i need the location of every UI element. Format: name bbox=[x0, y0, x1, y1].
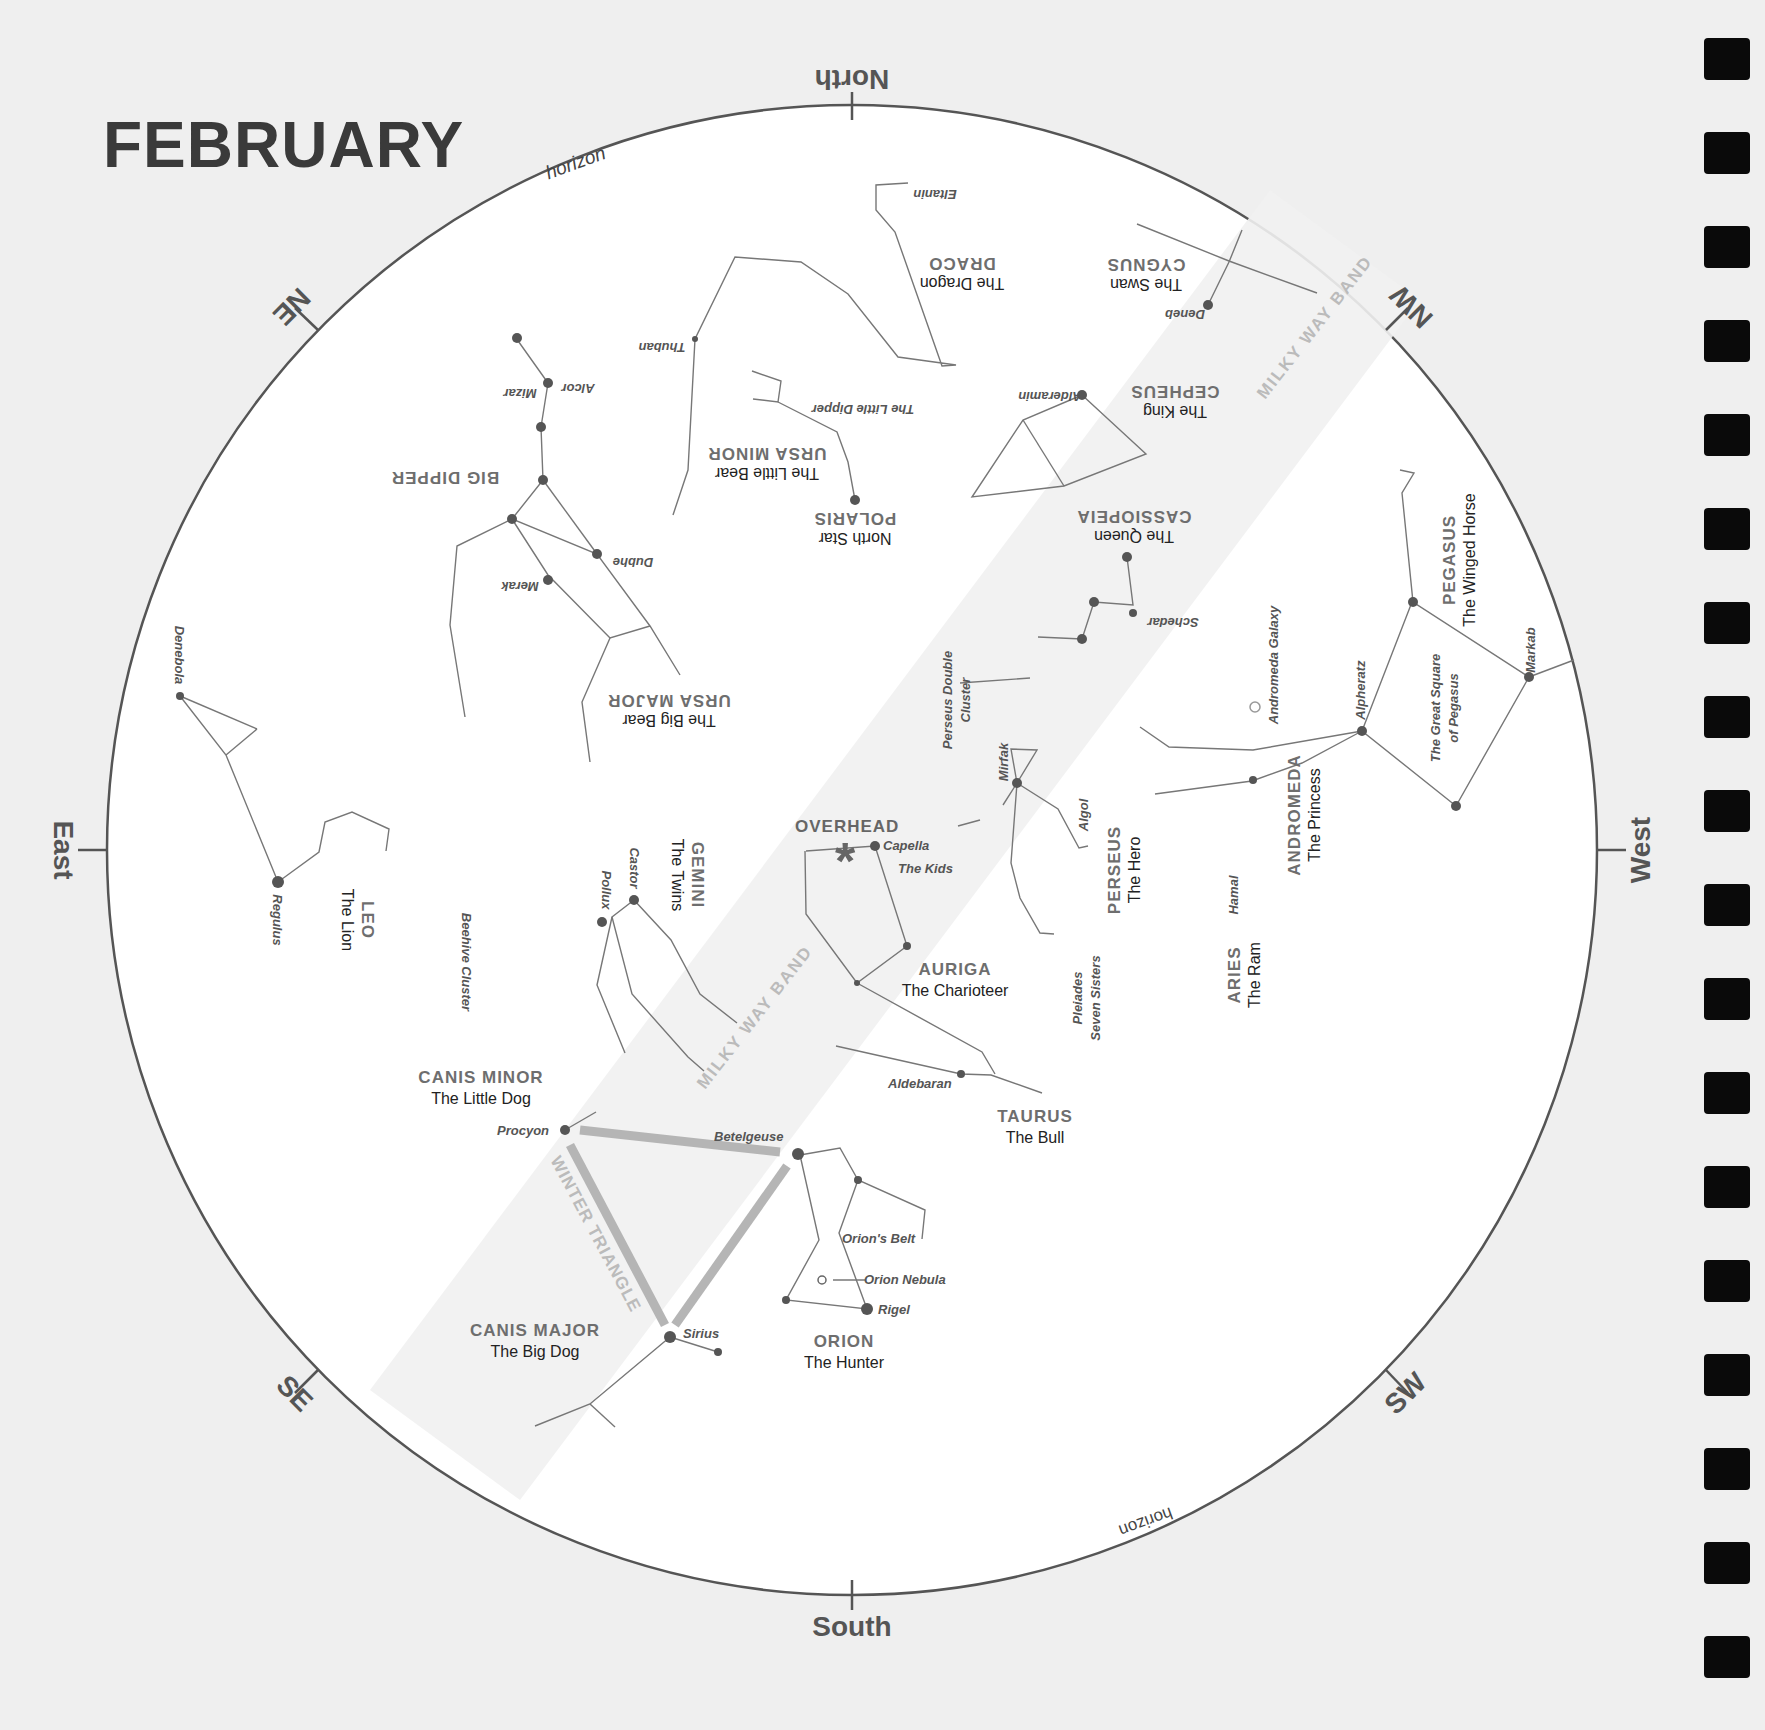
svg-text:Mirfak: Mirfak bbox=[996, 742, 1011, 781]
svg-text:Merak: Merak bbox=[500, 579, 538, 594]
svg-text:The Charioteer: The Charioteer bbox=[902, 982, 1009, 999]
ne-label: NE bbox=[267, 282, 316, 331]
svg-text:The Little Dipper: The Little Dipper bbox=[811, 402, 915, 417]
svg-text:The Bull: The Bull bbox=[1006, 1129, 1065, 1146]
draco-name: DRACO bbox=[928, 254, 995, 273]
svg-text:The Lion: The Lion bbox=[339, 889, 356, 951]
svg-text:Eltanin: Eltanin bbox=[913, 187, 956, 202]
svg-text:The King: The King bbox=[1143, 403, 1207, 420]
svg-text:The Big Dog: The Big Dog bbox=[491, 1343, 580, 1360]
svg-text:Alcor: Alcor bbox=[560, 381, 595, 396]
binder-hole bbox=[1704, 696, 1750, 738]
pegasus-name: PEGASUS bbox=[1440, 515, 1459, 605]
auriga-name: AURIGA bbox=[918, 960, 991, 979]
svg-text:Capella: Capella bbox=[883, 838, 929, 853]
binder-hole bbox=[1704, 132, 1750, 174]
svg-text:Sirius: Sirius bbox=[683, 1326, 719, 1341]
binder-hole bbox=[1704, 978, 1750, 1020]
svg-text:The Winged Horse: The Winged Horse bbox=[1461, 493, 1478, 626]
canis-minor-name: CANIS MINOR bbox=[418, 1068, 543, 1087]
binder-hole bbox=[1704, 602, 1750, 644]
svg-text:The Little Bear: The Little Bear bbox=[714, 465, 819, 482]
svg-text:Markab: Markab bbox=[1523, 627, 1538, 673]
cygnus-name: CYGNUS bbox=[1107, 255, 1186, 274]
south-label: South bbox=[812, 1611, 891, 1642]
andromeda-name: ANDROMEDA bbox=[1285, 754, 1304, 875]
west-label: West bbox=[1625, 817, 1656, 883]
overhead-label: OVERHEAD bbox=[795, 817, 899, 836]
aries-name: ARIES bbox=[1225, 947, 1244, 1004]
binder-hole bbox=[1704, 1542, 1750, 1584]
svg-text:The Princess: The Princess bbox=[1306, 768, 1323, 861]
east-label: East bbox=[48, 820, 79, 879]
svg-text:The Hero: The Hero bbox=[1126, 837, 1143, 904]
svg-text:Orion Nebula: Orion Nebula bbox=[864, 1272, 946, 1287]
binder-hole bbox=[1704, 1260, 1750, 1302]
svg-text:The Dragon: The Dragon bbox=[920, 275, 1005, 292]
binder-hole bbox=[1704, 1072, 1750, 1114]
svg-text:The Queen: The Queen bbox=[1094, 528, 1174, 545]
svg-text:The Hunter: The Hunter bbox=[804, 1354, 885, 1371]
ursa-major-name: URSA MAJOR bbox=[607, 691, 731, 710]
big-dipper-name: BIG DIPPER bbox=[391, 468, 499, 487]
binder-hole bbox=[1704, 1636, 1750, 1678]
canis-major-name: CANIS MAJOR bbox=[470, 1321, 600, 1340]
svg-text:Regulus: Regulus bbox=[270, 894, 285, 945]
svg-text:Mizar: Mizar bbox=[502, 386, 536, 401]
svg-text:The Great Square: The Great Square bbox=[1428, 654, 1443, 762]
svg-text:Thuban: Thuban bbox=[638, 340, 685, 355]
svg-text:Andromeda Galaxy: Andromeda Galaxy bbox=[1266, 605, 1281, 725]
svg-text:Cluster: Cluster bbox=[958, 677, 973, 723]
svg-text:The Swan: The Swan bbox=[1110, 276, 1182, 293]
svg-text:The Twins: The Twins bbox=[669, 839, 686, 912]
binder-hole bbox=[1704, 38, 1750, 80]
perseus-name: PERSEUS bbox=[1105, 826, 1124, 914]
svg-text:The Little Dog: The Little Dog bbox=[431, 1090, 531, 1107]
svg-text:Seven Sisters: Seven Sisters bbox=[1088, 955, 1103, 1040]
binder-hole bbox=[1704, 508, 1750, 550]
svg-text:The Ram: The Ram bbox=[1246, 942, 1263, 1008]
svg-text:Pleiades: Pleiades bbox=[1070, 972, 1085, 1025]
svg-text:Castor: Castor bbox=[627, 847, 642, 889]
svg-text:Deneb: Deneb bbox=[1165, 307, 1205, 322]
svg-text:Betelgeuse: Betelgeuse bbox=[714, 1129, 783, 1144]
cepheus-name: CEPHEUS bbox=[1130, 382, 1219, 401]
svg-text:Alpheratz: Alpheratz bbox=[1353, 660, 1368, 721]
binder-hole bbox=[1704, 226, 1750, 268]
svg-text:Alderamin: Alderamin bbox=[1018, 389, 1083, 404]
binder-hole bbox=[1704, 884, 1750, 926]
svg-text:Aldebaran: Aldebaran bbox=[887, 1076, 952, 1091]
overhead-asterisk-icon: * bbox=[835, 832, 856, 890]
svg-text:The Big Bear: The Big Bear bbox=[622, 712, 716, 729]
north-label: North bbox=[815, 64, 890, 95]
svg-text:Dubhe: Dubhe bbox=[613, 555, 653, 570]
binder-hole bbox=[1704, 790, 1750, 832]
svg-text:Schedar: Schedar bbox=[1146, 615, 1198, 630]
binder-hole bbox=[1704, 1166, 1750, 1208]
star-chart: MILKY WAY BAND MILKY WAY BAND North Sout… bbox=[0, 0, 1765, 1730]
orion-name: ORION bbox=[814, 1332, 875, 1351]
svg-text:Perseus Double: Perseus Double bbox=[940, 651, 955, 749]
gemini-name: GEMINI bbox=[688, 842, 707, 908]
svg-text:The Kids: The Kids bbox=[898, 861, 953, 876]
svg-text:Procyon: Procyon bbox=[497, 1123, 549, 1138]
binder-hole bbox=[1704, 1448, 1750, 1490]
binder-hole bbox=[1704, 320, 1750, 362]
sw-label: SW bbox=[1378, 1366, 1432, 1420]
leo-name: LEO bbox=[358, 901, 377, 939]
svg-text:Beehive Cluster: Beehive Cluster bbox=[459, 913, 474, 1012]
cassiopeia-name: CASSIOPEIA bbox=[1077, 507, 1192, 526]
polaris-name: POLARIS bbox=[814, 509, 897, 528]
ursa-minor-name: URSA MINOR bbox=[708, 444, 827, 463]
svg-text:North Star: North Star bbox=[818, 530, 892, 547]
binder-hole bbox=[1704, 1354, 1750, 1396]
svg-text:Denebola: Denebola bbox=[172, 626, 187, 685]
taurus-name: TAURUS bbox=[997, 1107, 1073, 1126]
svg-text:Rigel: Rigel bbox=[878, 1302, 910, 1317]
svg-text:Hamal: Hamal bbox=[1226, 875, 1241, 914]
svg-text:of Pegasus: of Pegasus bbox=[1446, 673, 1461, 742]
binder-hole bbox=[1704, 414, 1750, 456]
svg-text:Orion's Belt: Orion's Belt bbox=[842, 1231, 916, 1246]
svg-text:Algol: Algol bbox=[1076, 798, 1091, 832]
svg-text:Pollux: Pollux bbox=[599, 870, 614, 910]
